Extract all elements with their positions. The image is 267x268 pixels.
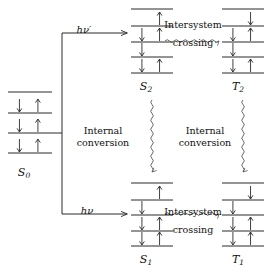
electron-spin-down-S2-2	[140, 28, 145, 41]
electron-spin-down-S2-3	[140, 43, 145, 56]
state-label-S2-subscript: 2	[147, 85, 152, 94]
electron-spin-up-S0-1	[36, 99, 41, 112]
process-label-intersystem-crossing-lower: Intersystem crossing	[164, 206, 221, 236]
state-label-S0-text: S	[18, 166, 26, 179]
electron-spin-down-S0-2	[17, 119, 22, 132]
state-label-S2-text: S	[140, 80, 148, 93]
electron-spin-up-T2-4	[248, 59, 253, 72]
electron-spin-down-T2-4	[231, 59, 236, 72]
electron-spin-down-T1-1	[248, 186, 253, 199]
electron-spin-up-S2-4	[157, 59, 162, 72]
electron-spin-down-S0-1	[17, 99, 22, 112]
process-label-intersystem-crossing-upper: Intersystem crossing	[164, 19, 221, 49]
electron-spin-down-S1-2	[140, 201, 145, 214]
electron-spin-up-S2-2	[157, 28, 162, 41]
electron-spin-down-T1-4	[231, 232, 236, 245]
state-label-T1: T1	[232, 253, 244, 267]
electron-spin-up-T1-4	[248, 232, 253, 245]
isc-lower-line1: Intersystem	[164, 206, 221, 218]
electron-spin-down-T2-1	[248, 12, 253, 25]
electron-spin-down-T1-3	[231, 217, 236, 230]
internal-conversion-arrow-singlet	[151, 100, 154, 172]
jablonski-diagram: S0 S2 T2 S1 T1 hν′ hν Intersystem crossi…	[0, 0, 267, 268]
electron-spin-up-S1-3	[157, 217, 162, 230]
state-label-S1-subscript: 1	[147, 258, 152, 267]
electron-spin-down-T2-3	[231, 43, 236, 56]
state-label-S1-text: S	[140, 253, 148, 266]
isc-upper-line2: crossing	[164, 37, 221, 49]
electron-spin-down-S1-4	[140, 232, 145, 245]
state-label-T2-subscript: 2	[239, 85, 244, 94]
state-label-T1-subscript: 1	[239, 258, 244, 267]
electron-spin-up-S1-1	[157, 186, 162, 199]
ic-triplet-line2: conversion	[179, 137, 231, 149]
isc-upper-line1: Intersystem	[164, 19, 221, 31]
ic-singlet-line2: conversion	[77, 137, 129, 149]
photon-label-absorption-upper: hν′	[77, 24, 92, 35]
state-label-S0: S0	[18, 166, 30, 180]
state-label-S1: S1	[140, 253, 152, 267]
state-label-T2: T2	[232, 80, 244, 94]
state-label-S2: S2	[140, 80, 152, 94]
isc-lower-line2: crossing	[164, 224, 221, 236]
electron-spin-up-S2-1	[157, 12, 162, 25]
electron-spin-down-T1-2	[231, 201, 236, 214]
electron-spin-up-S1-4	[157, 232, 162, 245]
internal-conversion-arrow-triplet	[242, 100, 245, 172]
electron-spin-up-T1-3	[248, 217, 253, 230]
electron-spin-up-T2-2	[248, 28, 253, 41]
electron-spin-down-T2-2	[231, 28, 236, 41]
excitation-branch-group	[52, 33, 127, 214]
electron-spin-down-S0-3	[17, 139, 22, 152]
state-label-S0-subscript: 0	[25, 171, 30, 180]
electron-spin-up-S0-2	[36, 119, 41, 132]
electron-spin-up-S0-3	[36, 139, 41, 152]
electron-spin-down-S2-4	[140, 59, 145, 72]
process-label-internal-conversion-triplet: Internal conversion	[179, 125, 231, 149]
ic-triplet-line1: Internal	[179, 125, 231, 137]
electron-spin-down-S1-3	[140, 217, 145, 230]
process-label-internal-conversion-singlet: Internal conversion	[77, 125, 129, 149]
ic-singlet-line1: Internal	[77, 125, 129, 137]
photon-label-absorption-lower: hν	[81, 205, 94, 216]
